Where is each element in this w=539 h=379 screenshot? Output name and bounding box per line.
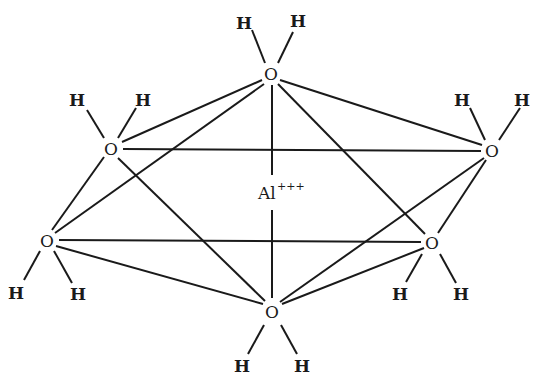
hydrogen-label: H — [236, 13, 252, 33]
hydrogen-label: H — [453, 284, 469, 304]
oxygen-upper-right: O — [485, 141, 499, 161]
hydrogen-label: H — [290, 11, 306, 31]
hydrogen-label: H — [514, 90, 530, 110]
octahedral-structure-diagram: Al +++ O O O O O O H H H H H H H H H H H… — [0, 0, 539, 379]
hydrogen-label: H — [234, 356, 250, 376]
center-atom: Al +++ — [257, 180, 305, 203]
hydrogen-label: H — [70, 284, 86, 304]
aluminium-label: Al — [257, 183, 276, 203]
hydrogen-label: H — [294, 356, 310, 376]
hydrogen-label: H — [454, 90, 470, 110]
charge-label: +++ — [277, 180, 305, 193]
hydrogen-label: H — [69, 90, 85, 110]
oxygen-lower-right: O — [425, 233, 439, 253]
oxygen-upper-left: O — [104, 139, 118, 159]
oxygen-bottom: O — [265, 302, 279, 322]
oxygen-top: O — [264, 64, 278, 84]
hydrogen-label: H — [8, 283, 24, 303]
hydrogen-label: H — [392, 284, 408, 304]
oxygen-lower-left: O — [40, 231, 54, 251]
hydrogen-label: H — [135, 90, 151, 110]
